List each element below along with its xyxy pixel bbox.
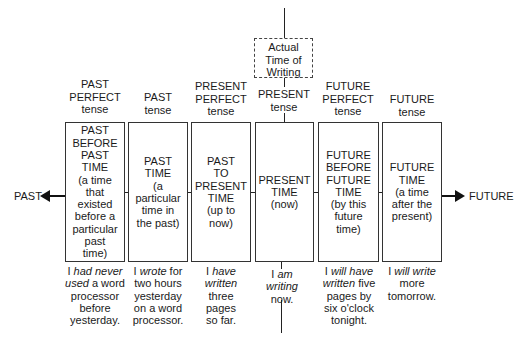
tense-label-past-perfect: PAST PERFECT tense [60, 78, 130, 116]
time-box-past-to-present: PAST TO PRESENT TIME (up to now) [191, 122, 251, 262]
tense-label-future: FUTURE tense [376, 93, 448, 118]
box-text: FUTURE BEFORE FUTURE TIME (by this futur… [326, 149, 371, 235]
example-sentence: I had neverused a wordprocessorbeforeyes… [60, 265, 130, 326]
box-text: PAST TO PRESENT TIME (up to now) [195, 155, 247, 229]
time-of-writing-line-mid2 [284, 113, 285, 122]
time-box-past: PAST TIME (a particular time in the past… [128, 122, 188, 262]
time-box-past-before-past: PAST BEFORE PAST TIME (a time that exist… [65, 122, 125, 262]
example-sentence: I will writemoretomorrow. [376, 265, 448, 302]
example-sentence: I havewrittenthreepagesso far. [186, 265, 256, 326]
box-text: PAST TIME (a particular time in the past… [135, 155, 180, 229]
example-sentence: I amwritingnow. [250, 268, 314, 305]
time-box-future: FUTURE TIME (a time after the present) [382, 122, 442, 262]
tense-label-present-perfect: PRESENT PERFECT tense [183, 80, 259, 118]
tense-label-future-perfect: FUTURE PERFECT tense [312, 80, 384, 118]
box-text: FUTURE TIME (a time after the present) [390, 161, 435, 222]
future-end-label: FUTURE [469, 190, 514, 202]
time-box-present: PRESENT TIME (now) [255, 122, 314, 262]
past-end-label: PAST [14, 190, 42, 202]
box-text: PAST BEFORE PAST TIME (a time that exist… [72, 124, 117, 259]
arrow-left-icon [40, 189, 66, 203]
example-sentence: I wrote fortwo hoursyesterdayon a wordpr… [124, 265, 192, 326]
time-box-future-before-future: FUTURE BEFORE FUTURE TIME (by this futur… [318, 122, 379, 262]
example-sentence: I will havewritten fivepages bysix o'clo… [314, 265, 384, 326]
box-text: PRESENT TIME (now) [259, 174, 311, 211]
arrow-right-icon [441, 189, 465, 203]
actual-time-of-writing-box: Actual Time of Writing [254, 38, 313, 78]
time-of-writing-line-mid [284, 78, 285, 87]
time-of-writing-line-top [284, 8, 285, 38]
tense-label-present: PRESENT tense [250, 88, 318, 113]
time-of-writing-line-bottom [281, 300, 282, 333]
